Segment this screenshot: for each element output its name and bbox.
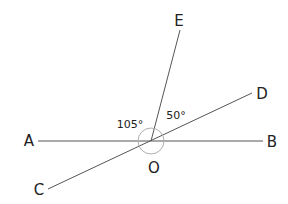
angle-diagram: A B C D E O 105° 50° <box>0 0 288 204</box>
angle-label-aoe: 105° <box>117 118 144 131</box>
ray-oe <box>151 30 180 141</box>
label-d: D <box>256 85 268 103</box>
angle-label-eod: 50° <box>166 109 186 122</box>
label-o: O <box>148 159 160 177</box>
label-a: A <box>24 132 35 150</box>
label-c: C <box>34 181 44 199</box>
label-e: E <box>174 12 183 30</box>
label-b: B <box>267 133 277 151</box>
